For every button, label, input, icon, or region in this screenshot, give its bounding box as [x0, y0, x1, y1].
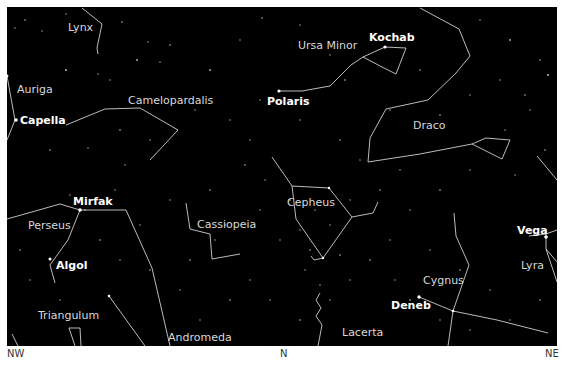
star-label-mirfak: Mirfak — [73, 196, 113, 207]
sky-chart: Lynx Auriga Camelopardalis Ursa Minor Dr… — [7, 7, 557, 346]
constellation-lines — [7, 7, 557, 346]
constellation-label-ursa-minor: Ursa Minor — [298, 40, 357, 51]
constellation-label-lynx: Lynx — [68, 22, 93, 33]
constellation-label-andromeda: Andromeda — [168, 332, 232, 343]
direction-label-n: N — [280, 349, 287, 359]
star-label-capella: Capella — [20, 115, 66, 126]
star-label-algol: Algol — [56, 260, 88, 271]
constellation-label-cassiopeia: Cassiopeia — [197, 219, 256, 230]
star-label-vega: Vega — [517, 225, 548, 236]
constellation-label-draco: Draco — [413, 120, 446, 131]
constellation-label-auriga: Auriga — [17, 84, 53, 95]
constellation-figures — [7, 8, 557, 346]
star-label-kochab: Kochab — [369, 32, 415, 43]
constellation-label-triangulum: Triangulum — [38, 310, 99, 321]
star-label-polaris: Polaris — [267, 96, 310, 107]
constellation-label-lacerta: Lacerta — [342, 327, 383, 338]
constellation-label-perseus: Perseus — [28, 220, 71, 231]
constellation-label-lyra: Lyra — [521, 260, 544, 271]
constellation-label-cygnus: Cygnus — [423, 275, 464, 286]
constellation-label-cepheus: Cepheus — [287, 197, 335, 208]
direction-label-ne: NE — [545, 349, 559, 359]
constellation-label-camelopardalis: Camelopardalis — [128, 95, 213, 106]
direction-label-nw: NW — [7, 349, 24, 359]
background-stars — [14, 13, 549, 330]
star-label-deneb: Deneb — [391, 300, 431, 311]
